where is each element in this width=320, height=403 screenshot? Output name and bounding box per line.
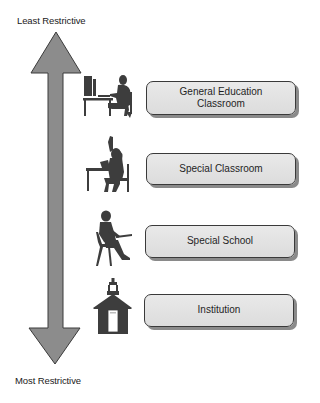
student-at-computer-icon — [82, 72, 142, 122]
level-label: Special School — [187, 235, 253, 248]
level-label: Institution — [198, 304, 241, 317]
level-label-line1: General Education — [180, 86, 263, 99]
level-box-general-education-classroom: General Education Classroom — [146, 81, 296, 115]
schoolhouse-icon — [93, 278, 133, 335]
level-box-special-school: Special School — [145, 225, 295, 258]
double-headed-arrow-icon — [0, 0, 320, 403]
student-raising-hand-icon — [86, 136, 142, 194]
level-label: Special Classroom — [179, 163, 262, 176]
level-label-line2: Classroom — [180, 98, 263, 111]
most-restrictive-label: Most Restrictive — [15, 375, 81, 386]
student-at-desk-icon — [94, 210, 140, 270]
level-box-special-classroom: Special Classroom — [146, 153, 296, 185]
level-box-institution: Institution — [144, 294, 294, 327]
